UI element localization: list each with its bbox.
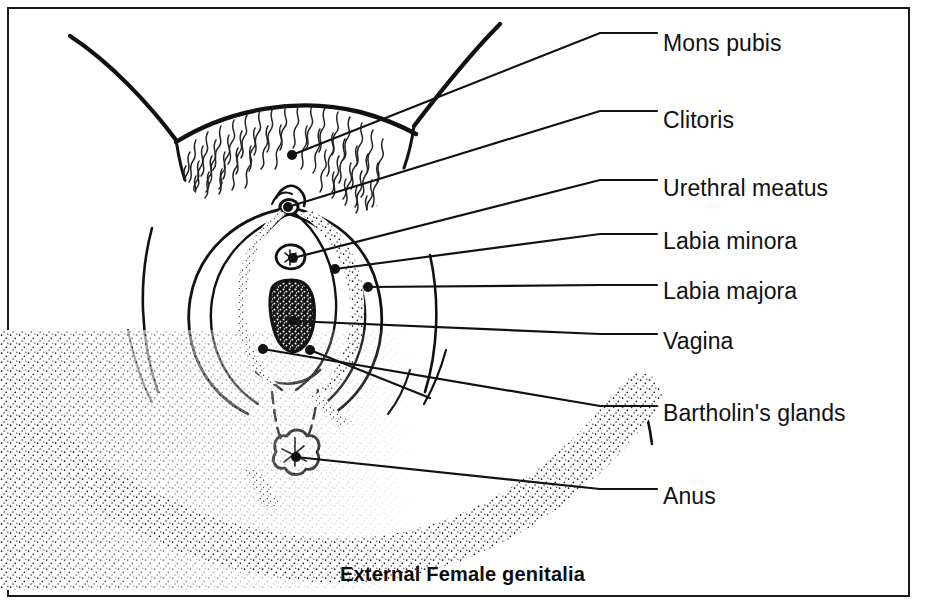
leader-line-labia-minora [335, 234, 657, 269]
label-mons-pubis: Mons pubis [663, 30, 782, 57]
right-inguinal-fold [414, 24, 500, 126]
figure-caption: External Female genitalia [0, 563, 925, 586]
anchor-dot-vagina [288, 316, 298, 326]
anchor-dot-bartholins-glands [258, 344, 268, 354]
anchor-dot-anus [291, 452, 301, 462]
anchor-dot-labia-majora [363, 282, 373, 292]
label-clitoris: Clitoris [663, 107, 734, 134]
label-bartholins-glands: Bartholin's glands [663, 400, 846, 427]
buttock-shading [0, 330, 700, 590]
anchor-dot-urethral-meatus [288, 253, 298, 263]
anatomical-diagram [0, 0, 925, 612]
label-labia-minora: Labia minora [663, 228, 797, 255]
figure-page: Mons pubis Clitoris Urethral meatus Labi… [0, 0, 925, 612]
anchor-dot-labia-minora [330, 264, 340, 274]
label-urethral-meatus: Urethral meatus [663, 175, 828, 202]
mons-pubis-hairline [176, 105, 416, 142]
label-labia-majora: Labia majora [663, 278, 797, 305]
leader-line-labia-majora [368, 285, 657, 287]
anchor-dot-bartholins-second [305, 345, 315, 355]
anchor-dot-mons-pubis [287, 150, 297, 160]
left-inguinal-fold [70, 36, 176, 140]
label-anus: Anus [663, 483, 716, 510]
label-vagina: Vagina [663, 328, 734, 355]
anchor-dot-clitoris [283, 202, 293, 212]
